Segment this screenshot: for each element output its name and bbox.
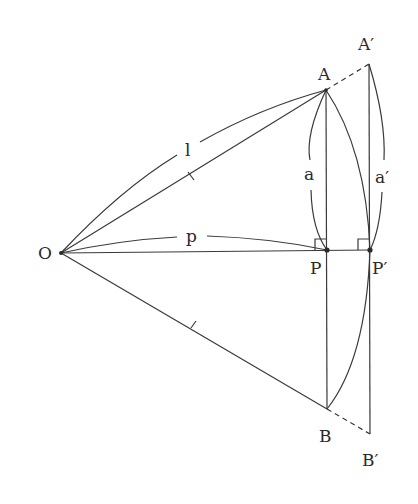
label-P-prime: P′ bbox=[372, 258, 387, 278]
label-B-prime: B′ bbox=[362, 450, 378, 470]
tick-mark-OB bbox=[191, 321, 196, 328]
arc-P-prime-B bbox=[327, 250, 370, 409]
label-P: P bbox=[310, 258, 321, 278]
label-a-prime: a′ bbox=[375, 167, 389, 187]
point-O bbox=[59, 251, 63, 255]
dashed-A-A-prime bbox=[326, 64, 369, 90]
dashed-B-B-prime bbox=[327, 409, 370, 434]
point-P-prime bbox=[367, 247, 372, 252]
label-B: B bbox=[319, 426, 332, 446]
geometry-diagram: O A A′ P P′ B B′ l p a a′ bbox=[0, 0, 418, 504]
label-a: a bbox=[304, 164, 314, 184]
arc-p-left bbox=[61, 237, 177, 253]
right-angle-mark-P-prime bbox=[358, 239, 369, 250]
arc-A-P-prime bbox=[326, 90, 370, 250]
label-p: p bbox=[186, 226, 197, 246]
segment-OP-prime bbox=[61, 250, 370, 253]
arc-a-bottom bbox=[311, 190, 327, 250]
arc-p-right bbox=[207, 236, 327, 250]
label-A-prime: A′ bbox=[357, 34, 374, 54]
arc-a-prime-bottom bbox=[370, 192, 382, 250]
arc-a-top bbox=[309, 90, 326, 160]
label-A: A bbox=[317, 64, 331, 84]
segment-OB bbox=[61, 253, 327, 409]
arc-a-prime-top bbox=[369, 64, 384, 160]
label-O: O bbox=[38, 243, 52, 263]
label-l: l bbox=[185, 140, 190, 160]
point-P bbox=[324, 247, 329, 252]
point-A bbox=[324, 88, 328, 92]
arc-l-right bbox=[200, 90, 326, 142]
